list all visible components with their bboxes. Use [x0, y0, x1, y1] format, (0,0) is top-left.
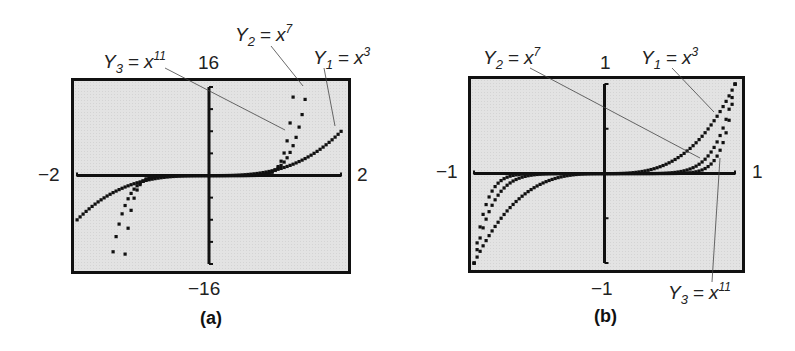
label-y3-b: Y3=x11 — [668, 280, 731, 307]
x-max-label-b: 1 — [752, 161, 763, 183]
x-min-label-b: −1 — [436, 161, 458, 183]
label-y1-b: Y1=x3 — [641, 45, 698, 72]
y-max-label-b: 1 — [600, 52, 611, 74]
caption-b: (b) — [594, 306, 617, 327]
panel-b: Y2=x7 Y1=x3 Y3=x11 1 −1 −1 1 (b) — [0, 0, 795, 351]
label-y2-b: Y2=x7 — [483, 45, 540, 72]
y-min-label-b: −1 — [591, 278, 613, 300]
